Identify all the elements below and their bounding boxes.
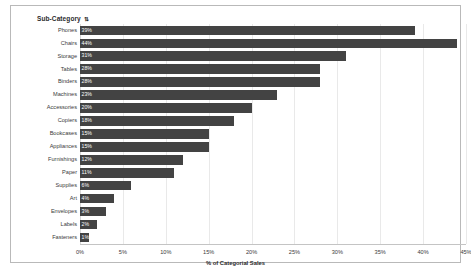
bar-row[interactable]: Furnishings12% <box>80 153 466 166</box>
category-label: Accessories <box>47 104 77 111</box>
bar-value-label: 39% <box>82 27 92 34</box>
bar-value-label: 15% <box>82 143 92 150</box>
bar-value-label: 12% <box>82 156 92 163</box>
bar[interactable] <box>80 155 183 165</box>
gridline <box>466 24 467 244</box>
chart-title: Sub-Category⇅ <box>37 15 89 22</box>
bar[interactable] <box>80 116 234 126</box>
bar[interactable] <box>80 90 277 100</box>
category-label: Fasteners <box>52 234 77 241</box>
category-label: Paper <box>62 169 77 176</box>
x-axis-line <box>80 244 466 245</box>
x-tick-label: 5% <box>119 249 127 255</box>
bar-value-label: 3% <box>82 208 90 215</box>
category-label: Supplies <box>56 182 77 189</box>
bar-value-label: 1% <box>82 234 90 241</box>
category-label: Chairs <box>61 40 77 47</box>
bar-value-label: 2% <box>82 221 90 228</box>
bar[interactable] <box>80 51 346 61</box>
bar-row[interactable]: Storage31% <box>80 50 466 63</box>
category-label: Machines <box>53 91 77 98</box>
chart-title-text: Sub-Category <box>37 15 81 22</box>
category-label: Labels <box>61 221 77 228</box>
bar-value-label: 6% <box>82 182 90 189</box>
bar[interactable] <box>80 64 320 74</box>
x-tick-label: 15% <box>203 249 214 255</box>
bar-value-label: 28% <box>82 65 92 72</box>
x-axis-title: % of Categorial Sales <box>11 260 460 266</box>
bar-value-label: 44% <box>82 40 92 47</box>
x-tick-label: 35% <box>375 249 386 255</box>
bar-row[interactable]: Tables28% <box>80 63 466 76</box>
bar-value-label: 20% <box>82 104 92 111</box>
bar-row[interactable]: Appliances15% <box>80 140 466 153</box>
category-label: Art <box>70 195 77 202</box>
bar-value-label: 18% <box>82 117 92 124</box>
x-tick-label: 30% <box>332 249 343 255</box>
bar-rows: Phones39%Chairs44%Storage31%Tables28%Bin… <box>80 24 466 244</box>
bar[interactable] <box>80 129 209 139</box>
x-tick-label: 0% <box>76 249 84 255</box>
chart-page: Sub-Category⇅ Phones39%Chairs44%Storage3… <box>0 0 471 272</box>
x-tick-label: 45% <box>460 249 471 255</box>
category-label: Furnishings <box>48 156 77 163</box>
bar-row[interactable]: Machines23% <box>80 89 466 102</box>
bar-value-label: 15% <box>82 130 92 137</box>
bar-row[interactable]: Accessories20% <box>80 102 466 115</box>
bar-row[interactable]: Chairs44% <box>80 37 466 50</box>
category-label: Tables <box>61 66 77 73</box>
plot-area: Phones39%Chairs44%Storage31%Tables28%Bin… <box>80 24 466 244</box>
bar[interactable] <box>80 77 320 87</box>
x-tick-label: 10% <box>160 249 171 255</box>
x-tick-label: 20% <box>246 249 257 255</box>
category-label: Copiers <box>58 117 77 124</box>
bar-row[interactable]: Supplies6% <box>80 179 466 192</box>
bar-row[interactable]: Labels2% <box>80 218 466 231</box>
x-tick-label: 40% <box>418 249 429 255</box>
bar-row[interactable]: Binders28% <box>80 76 466 89</box>
bar[interactable] <box>80 26 415 36</box>
category-label: Appliances <box>50 143 77 150</box>
bar-row[interactable]: Phones39% <box>80 24 466 37</box>
category-label: Envelopes <box>51 208 77 215</box>
x-tick-label: 25% <box>289 249 300 255</box>
bar-row[interactable]: Paper11% <box>80 166 466 179</box>
bar-value-label: 4% <box>82 195 90 202</box>
bar-value-label: 11% <box>82 169 92 176</box>
bar[interactable] <box>80 103 252 113</box>
bar-value-label: 28% <box>82 78 92 85</box>
bar-row[interactable]: Art4% <box>80 192 466 205</box>
bar-value-label: 23% <box>82 91 92 98</box>
bar-value-label: 31% <box>82 52 92 59</box>
category-label: Bookcases <box>50 130 77 137</box>
bar-row[interactable]: Bookcases15% <box>80 128 466 141</box>
bar-row[interactable]: Copiers18% <box>80 115 466 128</box>
chart-frame: Sub-Category⇅ Phones39%Chairs44%Storage3… <box>10 5 461 263</box>
category-label: Storage <box>57 53 77 60</box>
bar[interactable] <box>80 168 174 178</box>
category-label: Phones <box>58 27 77 34</box>
bar[interactable] <box>80 142 209 152</box>
sort-indicator-icon[interactable]: ⇅ <box>84 15 89 22</box>
bar-row[interactable]: Envelopes3% <box>80 205 466 218</box>
bar-row[interactable]: Fasteners1% <box>80 231 466 244</box>
bar[interactable] <box>80 39 457 49</box>
category-label: Binders <box>58 78 77 85</box>
